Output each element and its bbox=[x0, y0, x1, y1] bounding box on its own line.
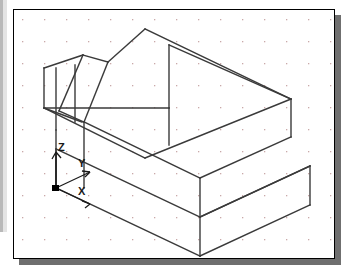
cad-viewport: Z Y X bbox=[0, 0, 346, 278]
left-window-edge-highlight bbox=[3, 0, 7, 232]
axis-label-y: Y bbox=[78, 158, 85, 169]
drawing-frame[interactable]: Z Y X bbox=[13, 9, 335, 259]
left-window-edge-strip bbox=[0, 0, 7, 232]
ucs-origin-marker bbox=[52, 185, 59, 191]
axis-label-x: X bbox=[78, 186, 85, 197]
wireframe-geometry[interactable] bbox=[14, 10, 335, 259]
axis-label-z: Z bbox=[58, 142, 65, 153]
